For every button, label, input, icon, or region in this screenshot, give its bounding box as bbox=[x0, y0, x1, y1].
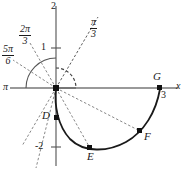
axis-label-pi: π bbox=[3, 82, 8, 92]
angle-label-five-pi-over-six: 5π 6 bbox=[2, 44, 14, 66]
angle-label-five-pi-over-six-denominator: 6 bbox=[2, 56, 14, 66]
point-marker-origin bbox=[53, 85, 59, 91]
point-label-F: F bbox=[144, 131, 151, 142]
axis-label-x-three: 3 bbox=[161, 90, 166, 100]
point-label-D: D bbox=[42, 110, 50, 121]
angle-label-five-pi-over-six-numerator: 5π bbox=[2, 44, 14, 54]
ray-lower-left bbox=[36, 88, 56, 168]
angle-label-pi-over-three-numerator: π bbox=[90, 17, 97, 27]
polar-figure: 2 1 -2 π x 3 2π 3 5π 6 π 3 D E F G bbox=[0, 0, 185, 169]
axis-label-x: x bbox=[176, 81, 180, 91]
angle-label-pi-over-three-denominator: 3 bbox=[90, 29, 97, 39]
angle-label-two-pi-over-three-numerator: 2π bbox=[19, 24, 31, 34]
arc-left-solid bbox=[26, 58, 56, 88]
axis-label-y-top: 2 bbox=[51, 1, 56, 11]
point-label-E: E bbox=[87, 151, 94, 162]
ray-five-pi-over-six bbox=[13, 60, 56, 88]
point-label-G: G bbox=[153, 71, 161, 82]
point-marker-D bbox=[54, 115, 59, 120]
angle-label-two-pi-over-three: 2π 3 bbox=[19, 24, 31, 46]
point-marker-F bbox=[137, 128, 142, 133]
ray-pi-over-three-opposite bbox=[22, 88, 56, 146]
axis-label-y-neg2: -2 bbox=[35, 141, 43, 151]
angle-label-pi-over-three: π 3 bbox=[90, 17, 97, 39]
axis-label-y-one: 1 bbox=[41, 42, 46, 52]
angle-label-two-pi-over-three-denominator: 3 bbox=[19, 36, 31, 46]
